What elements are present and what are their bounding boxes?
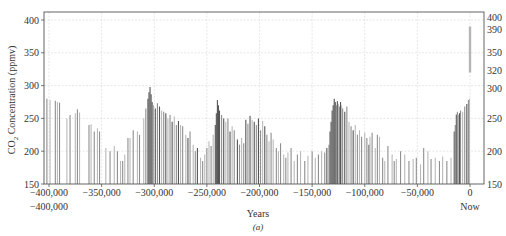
- svg-text:−300,000: −300,000: [135, 187, 173, 198]
- figure-caption: (a): [253, 222, 264, 232]
- svg-text:320: 320: [487, 65, 502, 76]
- svg-text:0: 0: [468, 187, 473, 198]
- svg-text:350: 350: [24, 47, 39, 58]
- x-axis-label: Years: [247, 208, 269, 219]
- svg-text:200: 200: [24, 146, 39, 157]
- svg-text:−200,000: −200,000: [240, 187, 278, 198]
- svg-text:300: 300: [24, 80, 39, 91]
- svg-text:Now: Now: [460, 201, 480, 212]
- svg-text:−150,000: −150,000: [293, 187, 331, 198]
- svg-text:300: 300: [487, 83, 502, 94]
- co2-concentration-chart: 150200250300350400 150200250300320350390…: [0, 0, 506, 236]
- svg-text:390: 390: [487, 24, 502, 35]
- svg-text:−250,000: −250,000: [188, 187, 226, 198]
- svg-text:−100,000: −100,000: [346, 187, 384, 198]
- svg-text:400: 400: [24, 15, 39, 26]
- svg-text:150: 150: [487, 179, 502, 190]
- svg-text:350: 350: [487, 47, 502, 58]
- svg-text:400: 400: [487, 12, 502, 23]
- svg-text:−400,000: −400,000: [30, 201, 68, 212]
- svg-text:−350,000: −350,000: [83, 187, 121, 198]
- svg-text:−50,000: −50,000: [401, 187, 434, 198]
- y-axis-label: CO2 Concentration (ppmv): [6, 46, 20, 155]
- svg-text:250: 250: [24, 113, 39, 124]
- modern-range-bar: [469, 27, 471, 73]
- svg-text:−400,000: −400,000: [30, 187, 68, 198]
- data-bars: [47, 87, 470, 184]
- y-axis-left: 150200250300350400: [24, 15, 44, 190]
- svg-text:200: 200: [487, 146, 502, 157]
- svg-text:250: 250: [487, 113, 502, 124]
- y-axis-right: 150200250300320350390400: [487, 12, 502, 190]
